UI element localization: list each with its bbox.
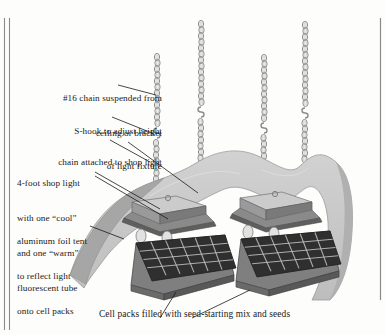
label-foil-tent-line2: to reflect light [17, 271, 167, 283]
diagram-caption: Cell packs filled with seed-starting mix… [99, 309, 290, 319]
label-shop-light-line1: 4-foot shop light [17, 178, 167, 190]
label-foil-tent-line1: aluminum foil tent [17, 236, 167, 248]
